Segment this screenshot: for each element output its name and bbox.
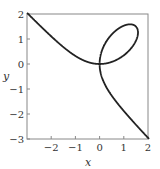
x-tick-label: −1 bbox=[68, 142, 83, 153]
plot-frame bbox=[27, 14, 148, 139]
x-tick-label: −2 bbox=[44, 142, 59, 153]
x-axis-label: x bbox=[85, 156, 92, 169]
y-tick-label: 2 bbox=[18, 9, 24, 20]
y-tick-label: 0 bbox=[18, 59, 24, 70]
x-tick-label: 1 bbox=[121, 142, 127, 153]
y-tick-label: 1 bbox=[18, 34, 24, 45]
x-tick-label: 2 bbox=[145, 142, 151, 153]
chart: −2−1012 −3−2−1012 x y bbox=[0, 0, 160, 169]
y-axis-label: y bbox=[2, 70, 10, 83]
y-tick-label: −1 bbox=[9, 84, 24, 95]
y-tick-label: −3 bbox=[9, 134, 24, 145]
folium-curve bbox=[27, 13, 149, 139]
x-tick-label: 0 bbox=[96, 142, 102, 153]
y-tick-label: −2 bbox=[9, 109, 24, 120]
